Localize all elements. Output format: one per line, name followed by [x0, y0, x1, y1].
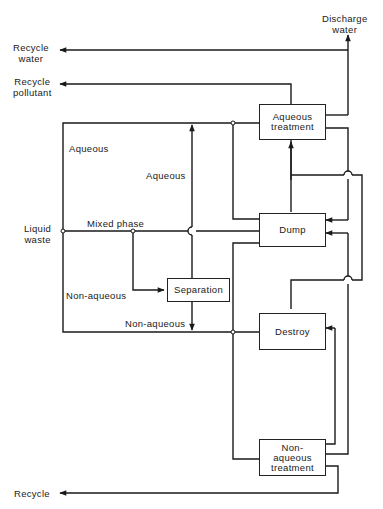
- recycle-pollutant-line: [60, 84, 291, 104]
- dump-label: Dump: [279, 225, 306, 235]
- non-aqueous-treatment-box: Non- aqueous treatment: [259, 439, 326, 476]
- mixed-phase-flow-label: Mixed phase: [87, 218, 144, 229]
- liquid-waste-node: [61, 229, 65, 233]
- aqueous-flow-label: Aqueous: [69, 143, 109, 154]
- non-aqueous-separation-flow-label: Non-aqueous: [125, 318, 185, 329]
- aqueous-treatment-label: Aqueous treatment: [271, 112, 314, 132]
- separation-label: Separation: [174, 285, 223, 295]
- destroy-box: Destroy: [259, 313, 326, 350]
- recycle-pollutant-label: Recycle pollutant: [13, 76, 52, 98]
- liquid-waste-label: Liquid waste: [24, 223, 51, 245]
- separation-box: Separation: [167, 278, 230, 302]
- non-aqueous-treatment-label: Non- aqueous treatment: [271, 443, 314, 473]
- discharge-water-label: Discharge water: [322, 13, 367, 35]
- destroy-label: Destroy: [275, 327, 310, 337]
- recycle-water-label: Recycle water: [13, 42, 49, 64]
- non-aqueous-flow-label: Non-aqueous: [66, 290, 126, 301]
- recycle-label: Recycle: [14, 488, 50, 499]
- aqueous-separation-flow-label: Aqueous: [146, 170, 186, 181]
- flow-diagram: [0, 0, 383, 509]
- aqueous-treatment-box: Aqueous treatment: [259, 104, 326, 140]
- dump-box: Dump: [259, 213, 326, 247]
